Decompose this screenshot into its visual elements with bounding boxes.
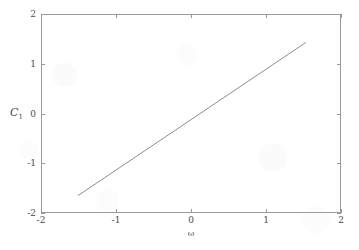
- x-tick-label: -2: [37, 216, 46, 225]
- x-tick-mark: [341, 14, 342, 18]
- x-tick-label: 1: [263, 216, 269, 225]
- x-tick-label: -1: [112, 216, 121, 225]
- x-tick-mark: [266, 209, 267, 213]
- series-line-c1: [78, 42, 306, 195]
- y-tick-label: -2: [14, 209, 36, 218]
- x-tick-label: 0: [188, 216, 194, 225]
- y-tick-label: -1: [14, 159, 36, 168]
- y-tick-mark: [337, 213, 341, 214]
- y-tick-mark: [41, 64, 45, 65]
- y-tick-mark: [41, 114, 45, 115]
- y-tick-mark: [41, 14, 45, 15]
- x-tick-mark: [116, 14, 117, 18]
- y-axis-label: C1: [10, 107, 23, 123]
- x-tick-label: 2: [338, 216, 344, 225]
- y-tick-mark: [41, 163, 45, 164]
- y-tick-label: 1: [14, 59, 36, 68]
- x-tick-mark: [266, 14, 267, 18]
- y-axis-label-subscript: 1: [18, 113, 22, 121]
- y-tick-mark: [337, 163, 341, 164]
- x-tick-mark: [191, 14, 192, 18]
- x-tick-mark: [191, 209, 192, 213]
- x-axis-label: ω: [188, 230, 195, 238]
- y-tick-label: 2: [14, 10, 36, 19]
- x-tick-mark: [116, 209, 117, 213]
- y-tick-mark: [337, 14, 341, 15]
- data-series-layer: [42, 15, 342, 214]
- y-tick-mark: [41, 213, 45, 214]
- y-tick-mark: [337, 64, 341, 65]
- plot-area: [41, 14, 341, 213]
- y-tick-mark: [337, 114, 341, 115]
- x-tick-mark: [341, 209, 342, 213]
- chart-figure: -2-1012-2-1012 C1 ω: [0, 0, 359, 250]
